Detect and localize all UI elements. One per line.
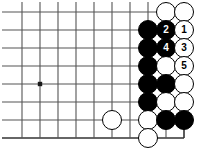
numbered-stone-5: 5 — [174, 56, 194, 76]
numbered-stone-1: 1 — [174, 20, 194, 40]
stone-number-label: 3 — [181, 43, 186, 53]
white-stone — [174, 92, 194, 112]
stone-number-label: 4 — [163, 43, 168, 53]
white-stone — [174, 2, 194, 22]
white-stone — [138, 128, 158, 148]
black-stone — [156, 74, 176, 94]
black-stone — [138, 56, 158, 76]
black-stone — [138, 92, 158, 112]
black-stone — [138, 20, 158, 40]
white-stone — [156, 56, 176, 76]
white-stone — [156, 92, 176, 112]
stone-number-label: 5 — [181, 61, 186, 71]
black-stone — [156, 110, 176, 130]
stone-number-label: 1 — [181, 25, 186, 35]
white-stone — [138, 110, 158, 130]
numbered-stone-2: 2 — [156, 20, 176, 40]
go-stone-layer: 21435 — [0, 0, 204, 151]
white-stone — [174, 74, 194, 94]
numbered-stone-4: 4 — [156, 38, 176, 58]
black-stone — [138, 38, 158, 58]
black-stone — [138, 74, 158, 94]
black-stone — [174, 110, 194, 130]
numbered-stone-3: 3 — [174, 38, 194, 58]
white-stone — [156, 2, 176, 22]
go-board-diagram: 21435 — [0, 0, 204, 151]
stone-number-label: 2 — [163, 25, 168, 35]
white-stone — [102, 110, 122, 130]
